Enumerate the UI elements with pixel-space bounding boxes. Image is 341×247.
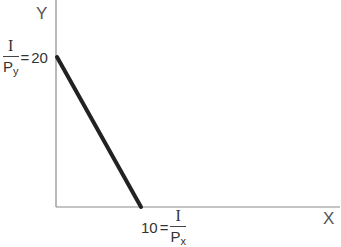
y-intercept-numerator: I (6, 38, 15, 54)
y-intercept-denominator: Py (3, 59, 19, 77)
x-intercept-value: 10 (141, 219, 158, 236)
denominator-subscript: x (180, 235, 186, 247)
y-intercept-fraction: I Py (3, 38, 19, 77)
x-intercept-fraction: I Px (170, 208, 186, 247)
denominator-base: P (3, 58, 13, 75)
fraction-bar (170, 226, 186, 227)
y-intercept-label: I Py = 20 (3, 38, 48, 77)
fraction-bar (3, 56, 19, 57)
equals-sign: = (21, 49, 30, 66)
denominator-base: P (170, 228, 180, 245)
equals-sign: = (160, 219, 169, 236)
denominator-subscript: y (13, 65, 19, 77)
x-axis-label: X (323, 209, 334, 229)
y-axis-label: Y (36, 4, 47, 24)
x-intercept-label: 10 = I Px (141, 208, 186, 247)
x-intercept-denominator: Px (170, 229, 186, 247)
budget-line (57, 57, 141, 207)
y-intercept-value: 20 (31, 49, 48, 66)
x-intercept-numerator: I (174, 208, 183, 224)
